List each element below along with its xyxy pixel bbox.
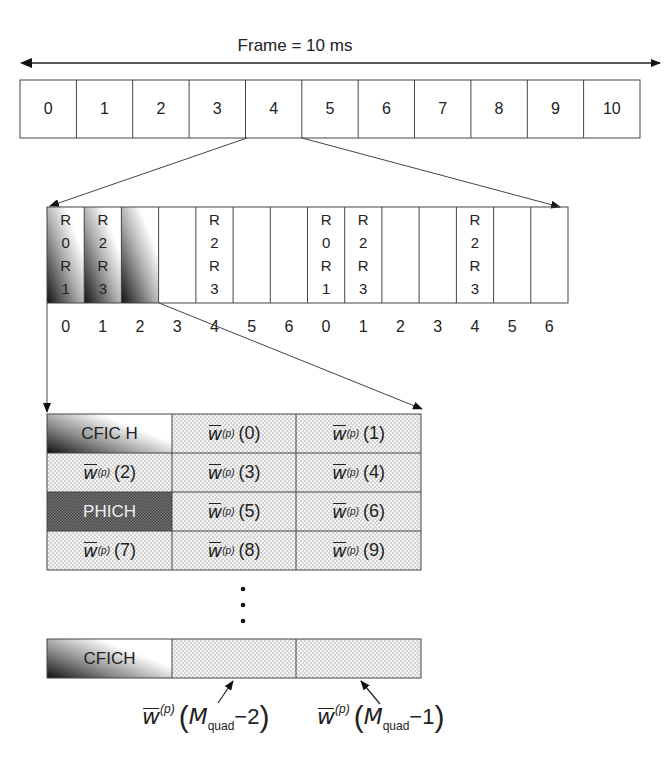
subframe-9: 9 xyxy=(527,80,583,138)
rs-char: R xyxy=(358,208,369,231)
subframe-label: 3 xyxy=(213,100,222,118)
w-index: (6) xyxy=(363,501,385,522)
symbol-index-label: 5 xyxy=(233,316,270,338)
rs-char: 0 xyxy=(61,231,69,254)
w-superscript: (p) xyxy=(98,467,110,478)
w-superscript: (p) xyxy=(222,545,234,556)
cfich-cell: CFIC H xyxy=(47,414,172,453)
w-quadruplet-cell: w(p)(6) xyxy=(296,492,421,531)
subframe-10: 10 xyxy=(584,80,640,138)
w-superscript: (p) xyxy=(347,467,359,478)
w-quadruplet-cell: w(p)(0) xyxy=(172,414,296,453)
w-symbol: w xyxy=(83,540,98,561)
rs-char: R xyxy=(321,254,332,277)
cfich-cell-last: CFICH xyxy=(47,639,172,678)
symbol-index-label: 0 xyxy=(47,316,84,338)
w-index: (1) xyxy=(363,423,385,444)
subframe-label: 4 xyxy=(269,100,278,118)
subframe-3: 3 xyxy=(189,80,245,138)
w-quadruplet-cell: w(p)(7) xyxy=(47,531,172,570)
rs-char: R xyxy=(209,254,220,277)
subframe-label: 1 xyxy=(100,100,109,118)
rs-char: R xyxy=(358,254,369,277)
cfich-label: CFIC H xyxy=(81,424,138,444)
symbol-index-label: 2 xyxy=(382,316,419,338)
reference-signal-symbol: R2R3 xyxy=(84,208,121,300)
annotation-m-quad-minus-1: w(p)(Mquad−1) xyxy=(317,700,444,734)
rs-char: R xyxy=(469,208,480,231)
w-superscript: (p) xyxy=(222,506,234,517)
subframe-8: 8 xyxy=(471,80,527,138)
w-index: (9) xyxy=(363,540,385,561)
rs-char: R xyxy=(209,208,220,231)
w-superscript: (p) xyxy=(222,428,234,439)
w-superscript: (p) xyxy=(347,545,359,556)
phich-label: PHICH xyxy=(83,502,136,522)
subframe-label: 0 xyxy=(44,100,53,118)
w-symbol: w xyxy=(208,462,223,483)
symbol-index-label: 4 xyxy=(456,316,493,338)
reference-signal-symbol: R0R1 xyxy=(47,208,84,300)
reference-signal-symbol: R2R3 xyxy=(456,208,493,300)
w-symbol: w xyxy=(208,501,223,522)
rs-char: 3 xyxy=(471,277,479,300)
rs-char: 1 xyxy=(61,277,69,300)
subframe-5: 5 xyxy=(302,80,358,138)
rs-char: 2 xyxy=(471,231,479,254)
rs-char: 0 xyxy=(322,231,330,254)
w-quadruplet-cell: w(p)(8) xyxy=(172,531,296,570)
symbol-index-label: 3 xyxy=(419,316,456,338)
rs-char: 3 xyxy=(99,277,107,300)
w-superscript: (p) xyxy=(347,506,359,517)
rs-char: 3 xyxy=(359,277,367,300)
w-index: (7) xyxy=(114,540,136,561)
w-superscript: (p) xyxy=(98,545,110,556)
w-quadruplet-cell: w(p)(9) xyxy=(296,531,421,570)
cfich-label: CFICH xyxy=(84,649,136,669)
subframe-0: 0 xyxy=(20,80,76,138)
w-superscript: (p) xyxy=(347,428,359,439)
w-symbol: w xyxy=(208,540,223,561)
symbol-index-label: 3 xyxy=(159,316,196,338)
symbol-index-label: 5 xyxy=(494,316,531,338)
w-quadruplet-cell: w(p)(1) xyxy=(296,414,421,453)
w-index: (3) xyxy=(238,462,260,483)
w-symbol: w xyxy=(332,462,347,483)
rs-char: R xyxy=(321,208,332,231)
symbol-index-label: 6 xyxy=(270,316,307,338)
subframe-7: 7 xyxy=(415,80,471,138)
w-index: (4) xyxy=(363,462,385,483)
w-index: (2) xyxy=(114,462,136,483)
rs-char: 2 xyxy=(99,231,107,254)
w-symbol: w xyxy=(332,423,347,444)
w-quadruplet-cell: w(p)(3) xyxy=(172,453,296,492)
symbol-index-label: 2 xyxy=(121,316,158,338)
subframe-label: 7 xyxy=(438,100,447,118)
phich-cell: PHICH xyxy=(47,492,172,531)
annotation-m-quad-minus-2: w(p)(Mquad−2) xyxy=(142,700,269,734)
subframe-6: 6 xyxy=(358,80,414,138)
w-index: (0) xyxy=(238,423,260,444)
w-quadruplet-cell: w(p)(4) xyxy=(296,453,421,492)
symbol-index-label: 6 xyxy=(531,316,568,338)
rs-char: R xyxy=(469,254,480,277)
frame-title: Frame = 10 ms xyxy=(0,36,670,56)
reference-signal-symbol: R0R1 xyxy=(307,208,344,300)
subframe-label: 2 xyxy=(156,100,165,118)
subframe-label: 6 xyxy=(382,100,391,118)
rs-char: R xyxy=(60,208,71,231)
rs-char: R xyxy=(97,208,108,231)
rs-char: 2 xyxy=(210,231,218,254)
symbol-index-label: 0 xyxy=(307,316,344,338)
w-symbol: w xyxy=(208,423,223,444)
subframe-label: 8 xyxy=(495,100,504,118)
subframe-1: 1 xyxy=(76,80,132,138)
subframe-label: 10 xyxy=(603,100,621,118)
symbol-index-label: 1 xyxy=(345,316,382,338)
reference-signal-symbol: R2R3 xyxy=(196,208,233,300)
w-index: (5) xyxy=(238,501,260,522)
rs-char: R xyxy=(60,254,71,277)
subframe-label: 5 xyxy=(326,100,335,118)
subframe-4: 4 xyxy=(245,80,301,138)
rs-char: 1 xyxy=(322,277,330,300)
